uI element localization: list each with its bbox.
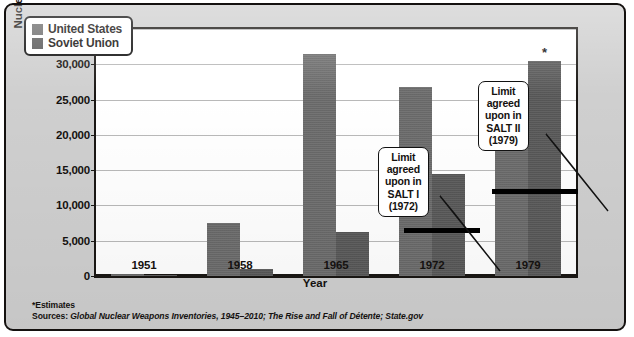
callout-line: agreed (485, 97, 522, 109)
y-axis-tick-mark (91, 170, 96, 171)
callout-salt2: Limitagreedupon inSALT II(1979) (478, 81, 529, 151)
bar-1951-united-states (111, 274, 144, 276)
x-axis-title: Year (6, 277, 624, 289)
callout-line: Limit (385, 151, 422, 163)
plot-area: 05,00010,00015,00020,00025,00030,00035,0… (94, 27, 578, 278)
callout-line: (1979) (485, 134, 522, 146)
legend-label-united-states: United States (48, 22, 122, 36)
sources-text: Global Nuclear Weapons Inventories, 1945… (68, 311, 423, 321)
legend-item-soviet-union: Soviet Union (32, 36, 122, 50)
y-axis-tick-mark (91, 135, 96, 136)
callout-line: SALT I (385, 188, 422, 200)
y-axis-tick-mark (91, 241, 96, 242)
legend-label-soviet-union: Soviet Union (48, 36, 119, 50)
bar-1951-soviet-union (144, 275, 177, 276)
callout-line: (1972) (385, 200, 422, 212)
callout-line: Limit (485, 85, 522, 97)
y-axis-tick-mark (91, 64, 96, 65)
callout-line: upon in (385, 175, 422, 187)
legend-swatch-united-states (32, 24, 43, 35)
callout-line: SALT II (485, 122, 522, 134)
y-axis-tick-mark (91, 100, 96, 101)
estimates-note: *Estimates (32, 300, 423, 310)
estimate-star-1979-su: * (542, 46, 547, 59)
callout-salt1: Limitagreedupon inSALT I(1972) (378, 147, 429, 217)
y-axis-tick-label: 20,000 (0, 129, 90, 141)
gridline (96, 29, 576, 30)
gridline (96, 64, 576, 65)
x-axis-tick-label-1965: 1965 (324, 259, 349, 271)
sources-note: Sources: Global Nuclear Weapons Inventor… (32, 311, 423, 321)
chart-card: Nuclear warheads 05,00010,00015,00020,00… (4, 3, 626, 331)
footnotes: *Estimates Sources: Global Nuclear Weapo… (32, 300, 423, 321)
x-axis-tick-label-1958: 1958 (228, 259, 253, 271)
callout-line: agreed (385, 163, 422, 175)
y-axis-tick-label: 15,000 (0, 164, 90, 176)
bar-1965-united-states (303, 54, 336, 276)
sources-label: Sources: (32, 311, 68, 321)
y-axis-tick-label: 5,000 (0, 235, 90, 247)
callout-line: upon in (485, 109, 522, 121)
y-axis-tick-mark (91, 205, 96, 206)
y-axis-tick-label: 10,000 (0, 199, 90, 211)
legend-swatch-soviet-union (32, 38, 43, 49)
y-axis-tick-label: 25,000 (0, 94, 90, 106)
y-axis-tick-label: 30,000 (0, 58, 90, 70)
x-axis-tick-label-1951: 1951 (132, 259, 157, 271)
legend: United States Soviet Union (24, 16, 133, 56)
legend-item-united-states: United States (32, 22, 122, 36)
